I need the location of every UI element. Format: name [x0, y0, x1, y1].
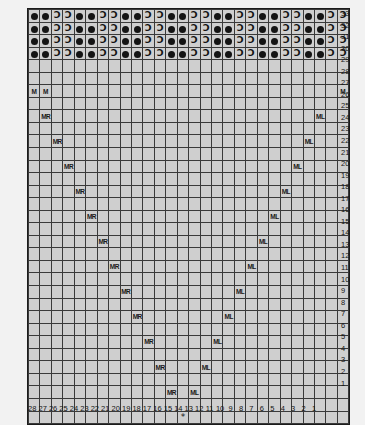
cell-filled[interactable] [189, 286, 200, 299]
cell-empty[interactable] [189, 85, 200, 98]
cell-empty[interactable] [40, 135, 51, 148]
cell-empty[interactable] [51, 336, 62, 349]
cell-empty[interactable] [303, 60, 314, 73]
cell-twist[interactable]: Ɔ [246, 47, 257, 60]
cell-filled[interactable] [280, 122, 291, 135]
cell-empty[interactable] [109, 348, 120, 361]
cell-filled[interactable] [166, 248, 177, 261]
cell-empty[interactable] [131, 72, 142, 85]
cell-filled[interactable] [292, 122, 303, 135]
cell-filled[interactable] [51, 110, 62, 123]
cell-bobble[interactable] [314, 47, 325, 60]
cell-filled[interactable] [97, 135, 108, 148]
cell-filled[interactable] [246, 248, 257, 261]
cell-empty[interactable] [269, 223, 280, 236]
cell-filled[interactable] [234, 210, 245, 223]
cell-empty[interactable] [280, 85, 291, 98]
cell-filled[interactable] [131, 235, 142, 248]
cell-filled[interactable] [120, 260, 131, 273]
cell-empty[interactable] [234, 323, 245, 336]
cell-filled[interactable] [154, 198, 165, 211]
cell-filled[interactable] [212, 223, 223, 236]
cell-empty[interactable] [326, 323, 337, 336]
cell-filled[interactable] [86, 198, 97, 211]
cell-bobble[interactable] [303, 10, 314, 23]
cell-bobble[interactable] [212, 47, 223, 60]
cell-filled[interactable] [189, 135, 200, 148]
cell-empty[interactable] [29, 210, 40, 223]
cell-filled[interactable] [177, 298, 188, 311]
cell-twist[interactable]: Ɔ [109, 35, 120, 48]
cell-empty[interactable] [269, 373, 280, 386]
cell-empty[interactable] [280, 311, 291, 324]
cell-filled[interactable] [86, 148, 97, 161]
cell-filled[interactable] [189, 173, 200, 186]
cell-filled[interactable] [257, 173, 268, 186]
cell-empty[interactable] [269, 361, 280, 374]
cell-empty[interactable] [280, 386, 291, 399]
cell-empty[interactable] [246, 361, 257, 374]
cell-empty[interactable] [109, 286, 120, 299]
cell-twist[interactable]: Ɔ [51, 47, 62, 60]
cell-empty[interactable] [246, 286, 257, 299]
cell-empty[interactable] [63, 386, 74, 399]
cell-filled[interactable] [143, 223, 154, 236]
cell-empty[interactable] [97, 348, 108, 361]
cell-empty[interactable] [63, 198, 74, 211]
cell-empty[interactable] [223, 386, 234, 399]
cell-filled[interactable] [166, 323, 177, 336]
cell-make-left[interactable]: ML [212, 336, 223, 349]
cell-empty[interactable] [326, 173, 337, 186]
cell-filled[interactable] [234, 273, 245, 286]
cell-bobble[interactable] [314, 10, 325, 23]
cell-empty[interactable] [314, 85, 325, 98]
cell-bobble[interactable] [86, 10, 97, 23]
cell-twist[interactable]: Ɔ [143, 10, 154, 23]
cell-empty[interactable] [29, 110, 40, 123]
cell-empty[interactable] [97, 373, 108, 386]
cell-bobble[interactable] [303, 22, 314, 35]
cell-bobble[interactable] [86, 35, 97, 48]
cell-filled[interactable] [74, 148, 85, 161]
cell-filled[interactable] [120, 173, 131, 186]
cell-twist[interactable]: Ɔ [143, 47, 154, 60]
cell-bobble[interactable] [86, 22, 97, 35]
cell-filled[interactable] [177, 311, 188, 324]
cell-empty[interactable] [63, 286, 74, 299]
cell-empty[interactable] [51, 361, 62, 374]
cell-empty[interactable] [51, 323, 62, 336]
cell-filled[interactable] [189, 273, 200, 286]
cell-bobble[interactable] [257, 10, 268, 23]
cell-filled[interactable] [109, 185, 120, 198]
cell-filled[interactable] [280, 173, 291, 186]
cell-empty[interactable] [326, 248, 337, 261]
cell-empty[interactable] [63, 235, 74, 248]
cell-empty[interactable] [166, 72, 177, 85]
cell-empty[interactable] [131, 60, 142, 73]
cell-filled[interactable] [223, 210, 234, 223]
cell-empty[interactable] [97, 386, 108, 399]
cell-empty[interactable] [29, 323, 40, 336]
cell-empty[interactable] [200, 386, 211, 399]
cell-empty[interactable] [280, 210, 291, 223]
cell-empty[interactable] [280, 97, 291, 110]
cell-filled[interactable] [234, 248, 245, 261]
cell-empty[interactable] [326, 210, 337, 223]
cell-filled[interactable] [97, 198, 108, 211]
cell-filled[interactable] [131, 248, 142, 261]
cell-empty[interactable] [314, 348, 325, 361]
cell-empty[interactable] [326, 348, 337, 361]
cell-twist[interactable]: Ɔ [63, 10, 74, 23]
cell-empty[interactable] [40, 260, 51, 273]
cell-empty[interactable] [234, 348, 245, 361]
cell-empty[interactable] [74, 386, 85, 399]
cell-bobble[interactable] [177, 35, 188, 48]
cell-filled[interactable] [109, 198, 120, 211]
cell-empty[interactable] [29, 248, 40, 261]
cell-filled[interactable] [246, 235, 257, 248]
cell-empty[interactable] [40, 323, 51, 336]
cell-empty[interactable] [40, 373, 51, 386]
cell-make-left[interactable]: ML [200, 361, 211, 374]
cell-filled[interactable] [234, 135, 245, 148]
cell-make-right[interactable]: MR [154, 361, 165, 374]
